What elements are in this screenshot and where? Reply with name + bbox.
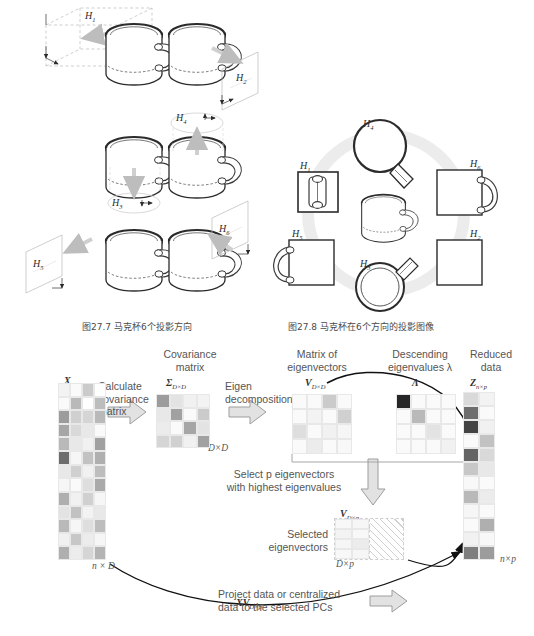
view-h2-square bbox=[437, 240, 482, 285]
matrix-cell bbox=[463, 420, 479, 434]
matrix-cell bbox=[70, 383, 82, 397]
matrix-cell bbox=[82, 478, 94, 492]
matrix-z bbox=[463, 392, 495, 560]
matrix-cell bbox=[322, 439, 337, 454]
matrix-cell bbox=[58, 506, 70, 520]
matrix-cell bbox=[479, 448, 495, 462]
matrix-cell bbox=[411, 424, 426, 439]
matrix-cell bbox=[197, 408, 211, 422]
matrix-cell bbox=[82, 506, 94, 520]
matrix-cell bbox=[426, 409, 441, 424]
matrix-cell bbox=[170, 408, 184, 422]
matrix-cell bbox=[292, 394, 307, 409]
view-h5-square-handle bbox=[274, 240, 334, 285]
heading-matrix-of-eigenvectors: Matrix of eigenvectors bbox=[272, 348, 362, 373]
matrix-cell bbox=[479, 406, 495, 420]
matrix-cell bbox=[479, 420, 495, 434]
matrix-cell bbox=[411, 409, 426, 424]
pca-pipeline-diagram: Covariance matrix Matrix of eigenvectors… bbox=[0, 336, 534, 636]
matrix-cell bbox=[479, 462, 495, 476]
matrix-cell bbox=[70, 533, 82, 547]
matrix-cell bbox=[335, 529, 352, 539]
mug-h6 bbox=[169, 230, 241, 291]
matrix-cell bbox=[58, 519, 70, 533]
matrix-cell bbox=[396, 409, 411, 424]
matrix-cell bbox=[411, 394, 426, 409]
matrix-cell bbox=[82, 437, 94, 451]
matrix-cell bbox=[94, 506, 106, 520]
matrix-cell bbox=[94, 437, 106, 451]
matrix-cell bbox=[70, 451, 82, 465]
view-label-h5: H5 bbox=[292, 228, 302, 241]
matrix-cell bbox=[183, 394, 197, 408]
matrix-cell bbox=[94, 465, 106, 479]
matrix-cell bbox=[322, 424, 337, 439]
matrix-cell bbox=[441, 394, 456, 409]
dim-label-Vp: D×p bbox=[336, 559, 354, 569]
matrix-cell bbox=[463, 406, 479, 420]
matrix-cell bbox=[197, 421, 211, 435]
matrix-cell bbox=[58, 383, 70, 397]
label-h6: H6 bbox=[219, 223, 229, 236]
matrix-cell bbox=[352, 539, 369, 549]
caption-figure-27-8: 图27.8 马克杯在6个方向的投影图像 bbox=[288, 320, 434, 333]
matrix-cell bbox=[197, 435, 211, 449]
matrix-cell bbox=[463, 476, 479, 490]
matrix-label-V: VD×D bbox=[305, 377, 325, 390]
label-h3: H3 bbox=[112, 197, 122, 210]
mug-h3 bbox=[106, 137, 178, 198]
matrix-cell bbox=[94, 383, 106, 397]
view-label-h3: H3 bbox=[360, 258, 370, 271]
matrix-cell bbox=[170, 421, 184, 435]
matrix-cell bbox=[352, 519, 369, 529]
matrix-cell bbox=[82, 533, 94, 547]
matrix-cell bbox=[479, 504, 495, 518]
matrix-label-Lambda: Λ bbox=[412, 377, 419, 388]
step-select-eigenvectors: Select p eigenvectors with highest eigen… bbox=[200, 468, 368, 493]
step-project-data: Project data or centralized data to the … bbox=[218, 588, 340, 613]
matrix-cell bbox=[82, 546, 94, 560]
matrix-cell bbox=[396, 394, 411, 409]
matrix-cell bbox=[58, 533, 70, 547]
matrix-cell bbox=[70, 546, 82, 560]
matrix-cell bbox=[94, 492, 106, 506]
matrix-cell bbox=[183, 408, 197, 422]
matrix-cell bbox=[463, 518, 479, 532]
matrix-cell bbox=[307, 424, 322, 439]
matrix-cell bbox=[94, 519, 106, 533]
matrix-cell bbox=[441, 409, 456, 424]
matrix-cell bbox=[411, 439, 426, 454]
dim-label-Sigma: D×D bbox=[208, 443, 228, 453]
matrix-cell bbox=[307, 409, 322, 424]
matrix-cell bbox=[352, 529, 369, 539]
matrix-cell bbox=[307, 394, 322, 409]
label-h4: H4 bbox=[176, 112, 186, 125]
matrix-cell bbox=[94, 546, 106, 560]
matrix-cell bbox=[307, 439, 322, 454]
matrix-cell bbox=[70, 424, 82, 438]
matrix-label-Z: Zn×p bbox=[470, 377, 487, 390]
matrix-cell bbox=[70, 506, 82, 520]
matrix-cell bbox=[479, 476, 495, 490]
matrix-cell bbox=[156, 421, 170, 435]
mug-h4 bbox=[169, 137, 241, 198]
matrix-cell bbox=[426, 439, 441, 454]
matrix-cell bbox=[463, 392, 479, 406]
view-label-h6: H6 bbox=[470, 158, 480, 171]
matrix-cell bbox=[335, 539, 352, 549]
matrix-cell bbox=[463, 462, 479, 476]
matrix-cell bbox=[58, 397, 70, 411]
matrix-cell bbox=[94, 410, 106, 424]
matrix-cell bbox=[94, 451, 106, 465]
matrix-cell bbox=[479, 490, 495, 504]
matrix-cell bbox=[94, 533, 106, 547]
matrix-cell bbox=[396, 439, 411, 454]
matrix-cell bbox=[463, 532, 479, 546]
label-h2: H2 bbox=[236, 72, 246, 85]
matrix-cell bbox=[94, 424, 106, 438]
mug-center-view bbox=[362, 195, 418, 243]
matrix-cell bbox=[70, 397, 82, 411]
step-selected-eigenvectors: Selected eigenvectors bbox=[238, 528, 328, 553]
mug-h1 bbox=[106, 24, 178, 85]
matrix-cell bbox=[183, 435, 197, 449]
